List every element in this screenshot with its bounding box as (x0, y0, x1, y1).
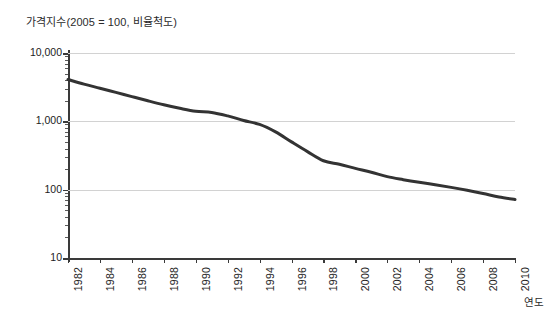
y-axis-tick-label: 100 (0, 183, 62, 195)
x-axis-tick (515, 258, 516, 263)
x-axis-tick (451, 258, 452, 263)
x-axis-tick (323, 258, 324, 263)
x-axis-tick-label: 2008 (487, 267, 499, 291)
x-axis-tick-label: 2004 (423, 267, 435, 291)
x-axis-tick-label: 2010 (519, 267, 531, 291)
x-axis-tick-label: 2006 (455, 267, 467, 291)
x-axis-tick-label: 1988 (168, 267, 180, 291)
x-axis-tick (260, 258, 261, 263)
x-axis-tick-label: 2002 (391, 267, 403, 291)
y-axis-tick-label: 10 (0, 251, 62, 263)
x-axis-tick (196, 258, 197, 263)
x-axis-tick-label: 1986 (136, 267, 148, 291)
x-axis-tick (228, 258, 229, 263)
plot-area (68, 53, 515, 258)
x-axis-tick (68, 258, 69, 263)
chart-title: 가격지수(2005 = 100, 비율척도) (26, 13, 177, 29)
price-index-chart: 가격지수(2005 = 100, 비율척도) 10,0001,00010010 … (0, 0, 552, 315)
x-axis-tick (100, 258, 101, 263)
x-axis-tick-label: 1996 (296, 267, 308, 291)
x-axis-tick (292, 258, 293, 263)
x-axis-tick (387, 258, 388, 263)
x-axis-tick (419, 258, 420, 263)
price-index-line (68, 53, 515, 258)
y-axis-tick-label: 10,000 (0, 46, 62, 58)
x-axis-tick (483, 258, 484, 263)
x-axis-tick (164, 258, 165, 263)
x-axis-tick (132, 258, 133, 263)
x-axis-tick-label: 1994 (264, 267, 276, 291)
x-axis-tick-label: 1998 (327, 267, 339, 291)
x-axis-tick-label: 1984 (104, 267, 116, 291)
y-axis-tick-label: 1,000 (0, 114, 62, 126)
x-axis-tick (355, 258, 356, 263)
x-axis-tick-label: 2000 (359, 267, 371, 291)
x-axis-tick-label: 1992 (232, 267, 244, 291)
x-axis-tick-label: 1990 (200, 267, 212, 291)
x-axis-title: 연도 (524, 294, 544, 309)
x-axis-tick-label: 1982 (72, 267, 84, 291)
